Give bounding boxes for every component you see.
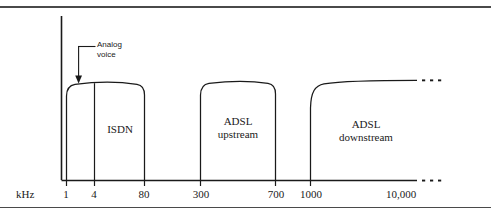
band-label-adsl-upstream: ADSL upstream xyxy=(200,115,276,141)
band-label-adsl-upstream-line-1: ADSL xyxy=(200,115,276,128)
tick-label-300: 300 xyxy=(186,188,216,200)
band-label-adsl-downstream: ADSL downstream xyxy=(318,118,414,144)
axis-unit-label: kHz xyxy=(16,188,34,200)
band-label-isdn: ISDN xyxy=(98,123,142,136)
annotation-line-1: Analog xyxy=(97,40,122,50)
tick-label-1: 1 xyxy=(52,188,80,200)
band-label-adsl-upstream-line-2: upstream xyxy=(200,128,276,141)
tick-label-1000: 1000 xyxy=(293,188,329,200)
band-label-isdn-line-1: ISDN xyxy=(98,123,142,136)
annotation-analog-voice: Analog voice xyxy=(97,40,122,59)
annotation-leader xyxy=(75,47,95,84)
continuation-dots-baseline xyxy=(422,180,441,182)
spectrum-svg xyxy=(0,0,491,207)
annotation-line-2: voice xyxy=(97,50,122,60)
figure-frame: Analog voice ISDN ADSL upstream ADSL dow… xyxy=(0,0,491,223)
tick-label-4: 4 xyxy=(80,188,108,200)
continuation-dots-top xyxy=(422,79,441,81)
band-label-adsl-downstream-line-1: ADSL xyxy=(318,118,414,131)
tick-label-700: 700 xyxy=(261,188,291,200)
tick-label-80: 80 xyxy=(130,188,158,200)
bottom-rule xyxy=(0,207,491,208)
annotation-arrowhead xyxy=(75,76,82,84)
caption-clipped-text xyxy=(3,212,203,222)
spectrum-plot: Analog voice ISDN ADSL upstream ADSL dow… xyxy=(0,0,491,207)
tick-label-10000: 10,000 xyxy=(378,188,424,200)
band-label-adsl-downstream-line-2: downstream xyxy=(318,131,414,144)
